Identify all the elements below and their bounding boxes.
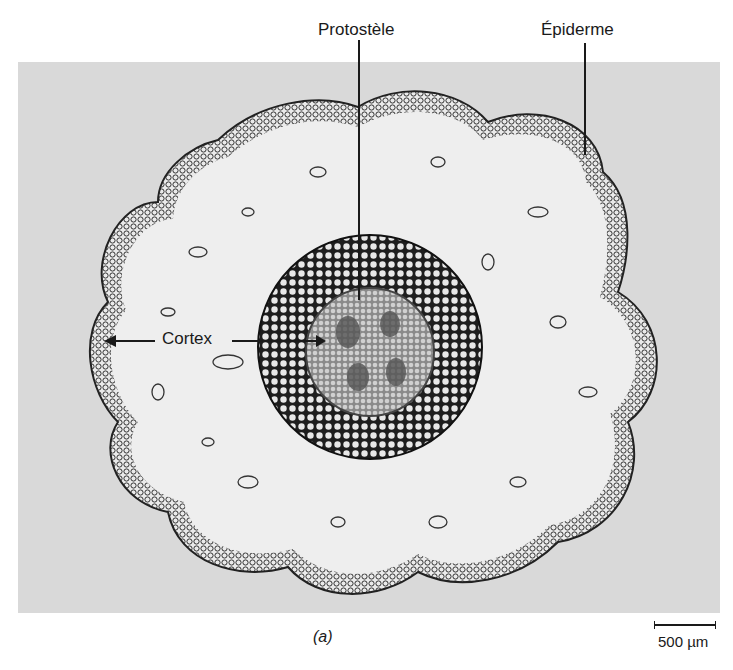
arrow-left-icon <box>104 335 116 347</box>
micrograph <box>18 62 720 613</box>
figure-caption: (a) <box>313 628 333 646</box>
scale-bar-label: 500 µm <box>658 633 708 650</box>
epidermis-label: Épiderme <box>541 20 614 40</box>
epidermis-leader-line <box>584 43 586 155</box>
arrow-right-icon <box>316 335 326 347</box>
protostele <box>306 288 434 416</box>
scale-bar <box>654 621 716 629</box>
protostele-label: Protostèle <box>318 20 395 40</box>
protostele-leader-line <box>358 40 360 300</box>
cortex-leader-left <box>110 340 155 342</box>
cortex-leader-right <box>232 340 320 342</box>
root-cross-section-illustration <box>18 62 720 613</box>
cortex-label: Cortex <box>162 329 212 349</box>
